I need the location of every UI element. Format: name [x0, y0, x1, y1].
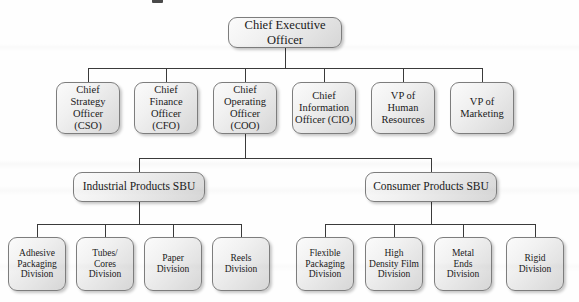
exec-bus — [88, 68, 482, 69]
node-division-label: Flexible Packaging Division — [299, 248, 351, 280]
node-sbu-label: Consumer Products SBU — [368, 180, 494, 193]
sbu-bus — [139, 158, 432, 159]
node-sbu-consumer-products-sbu[interactable]: Consumer Products SBU — [365, 172, 497, 202]
node-ceo-label: Chief Executive Officer — [231, 18, 339, 47]
exec-drop-cso — [88, 68, 89, 82]
node-exec-chief-information-officer-cio[interactable]: Chief Information Officer (CIO) — [292, 82, 356, 134]
coo-stem — [245, 134, 246, 158]
node-division-label: Reels Division — [215, 253, 267, 275]
consumer-bus — [325, 224, 535, 225]
exec-drop-coo — [245, 68, 246, 82]
consumer-stem — [431, 202, 432, 224]
node-exec-chief-strategy-officer-cso[interactable]: Chief Strategy Officer (CSO) — [56, 82, 120, 134]
node-division-label: Metal Ends Division — [437, 248, 489, 280]
node-exec-label: Chief Operating Officer (COO) — [216, 84, 274, 132]
org-chart-canvas: Chief Executive OfficerChief Strategy Of… — [0, 0, 579, 302]
node-division-adhesive-packaging-division[interactable]: Adhesive Packaging Division — [8, 237, 66, 291]
node-division-high-density-film-division[interactable]: High Density Film Division — [365, 237, 423, 291]
exec-drop-hr — [403, 68, 404, 82]
node-exec-label: Chief Information Officer (CIO) — [295, 90, 353, 126]
div-drop-flexible — [325, 224, 326, 237]
node-exec-vp-of-human-resources[interactable]: VP of Human Resources — [371, 82, 435, 134]
node-division-paper-division[interactable]: Paper Division — [144, 237, 202, 291]
div-drop-tubes — [105, 224, 106, 237]
node-division-flexible-packaging-division[interactable]: Flexible Packaging Division — [296, 237, 354, 291]
exec-drop-cfo — [166, 68, 167, 82]
div-drop-metalends — [463, 224, 464, 237]
industrial-stem — [139, 202, 140, 224]
scan-artifact-smudge — [152, 0, 163, 3]
node-division-tubes-cores-division[interactable]: Tubes/ Cores Division — [76, 237, 134, 291]
node-exec-chief-operating-officer-coo[interactable]: Chief Operating Officer (COO) — [213, 82, 277, 134]
industrial-bus — [37, 224, 241, 225]
exec-drop-cio — [324, 68, 325, 82]
div-drop-hdfilm — [394, 224, 395, 237]
div-drop-reels — [241, 224, 242, 237]
node-exec-chief-finance-officer-cfo[interactable]: Chief Finance Officer (CFO) — [134, 82, 198, 134]
div-drop-rigid — [535, 224, 536, 237]
div-drop-paper — [173, 224, 174, 237]
node-division-metal-ends-division[interactable]: Metal Ends Division — [434, 237, 492, 291]
sbu-drop-consumer — [431, 158, 432, 172]
node-division-label: High Density Film Division — [368, 248, 420, 280]
node-exec-label: VP of Marketing — [453, 96, 511, 120]
node-division-label: Adhesive Packaging Division — [11, 248, 63, 280]
ceo-stem — [285, 48, 286, 68]
node-division-label: Tubes/ Cores Division — [79, 248, 131, 280]
node-exec-vp-of-marketing[interactable]: VP of Marketing — [450, 82, 514, 134]
node-sbu-industrial-products-sbu[interactable]: Industrial Products SBU — [73, 172, 205, 202]
node-division-label: Paper Division — [147, 253, 199, 275]
node-exec-label: Chief Strategy Officer (CSO) — [59, 84, 117, 132]
sbu-drop-industrial — [139, 158, 140, 172]
node-exec-label: Chief Finance Officer (CFO) — [137, 84, 195, 132]
exec-drop-mkt — [482, 68, 483, 82]
node-division-label: Rigid Division — [509, 253, 561, 275]
div-drop-adhesive — [37, 224, 38, 237]
node-division-rigid-division[interactable]: Rigid Division — [506, 237, 564, 291]
node-sbu-label: Industrial Products SBU — [76, 180, 202, 193]
node-exec-label: VP of Human Resources — [374, 90, 432, 126]
node-ceo-chief-executive-officer[interactable]: Chief Executive Officer — [228, 17, 342, 48]
node-division-reels-division[interactable]: Reels Division — [212, 237, 270, 291]
